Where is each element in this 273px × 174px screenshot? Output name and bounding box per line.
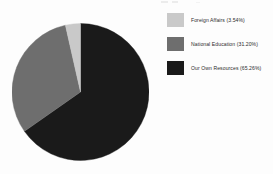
legend-swatch-foreign-affairs — [167, 13, 184, 27]
chart-legend: Foreign Affairs (3.54%) National Educati… — [167, 12, 273, 84]
legend-label-national-education: National Education (31.20%) — [191, 41, 258, 48]
pie-chart-figure: Foreign Affairs (3.54%) National Educati… — [0, 0, 273, 174]
pie-svg — [12, 22, 149, 162]
scan-artifact — [172, 1, 178, 3]
legend-item[interactable]: Foreign Affairs (3.54%) — [167, 12, 273, 28]
scan-artifact — [196, 2, 200, 3]
scan-artifact — [161, 1, 168, 3]
legend-label-foreign-affairs: Foreign Affairs (3.54%) — [191, 17, 245, 24]
legend-swatch-national-education — [167, 37, 184, 51]
legend-item[interactable]: Our Own Resources (65.26%) — [167, 60, 273, 76]
legend-swatch-our-own-resources — [167, 61, 184, 75]
legend-item[interactable]: National Education (31.20%) — [167, 36, 273, 52]
legend-label-our-own-resources: Our Own Resources (65.26%) — [191, 65, 261, 72]
pie-graphic — [12, 22, 149, 162]
